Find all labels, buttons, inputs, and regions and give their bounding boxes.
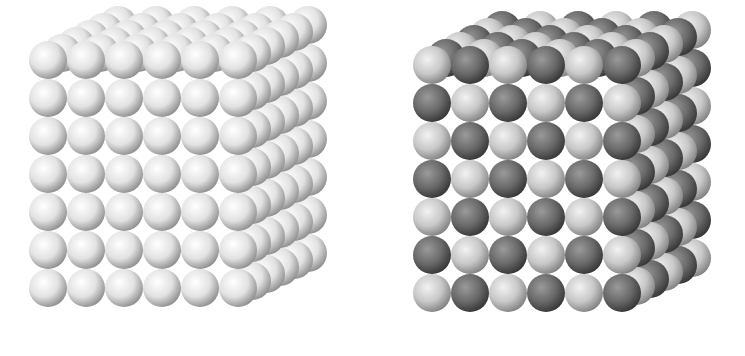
sphere (603, 46, 641, 84)
sphere (105, 155, 143, 193)
sphere (143, 193, 181, 231)
sphere (181, 79, 219, 117)
sphere (29, 231, 67, 269)
sphere (489, 84, 527, 122)
sphere (565, 236, 603, 274)
sphere (565, 160, 603, 198)
sphere (105, 193, 143, 231)
sphere (105, 117, 143, 155)
sphere (489, 160, 527, 198)
sphere (105, 41, 143, 79)
left-lattice-panel (0, 0, 372, 356)
sphere (219, 269, 257, 307)
sphere (181, 193, 219, 231)
sphere (527, 122, 565, 160)
sphere (67, 41, 105, 79)
sphere (527, 84, 565, 122)
sphere (105, 79, 143, 117)
sphere (565, 198, 603, 236)
sphere (219, 79, 257, 117)
sphere (565, 84, 603, 122)
sphere (451, 160, 489, 198)
sphere (29, 41, 67, 79)
right-lattice-panel (372, 0, 745, 356)
sphere (67, 117, 105, 155)
sphere (105, 231, 143, 269)
sphere (413, 84, 451, 122)
sphere (181, 117, 219, 155)
sphere (451, 122, 489, 160)
alternating-sphere-lattice-image (372, 0, 745, 356)
sphere (527, 160, 565, 198)
sphere (143, 269, 181, 307)
sphere (489, 274, 527, 312)
uniform-sphere-lattice-image (0, 0, 372, 356)
sphere (451, 236, 489, 274)
sphere (413, 198, 451, 236)
sphere (219, 155, 257, 193)
sphere (489, 236, 527, 274)
sphere (67, 231, 105, 269)
sphere (67, 155, 105, 193)
sphere (413, 160, 451, 198)
sphere (451, 84, 489, 122)
sphere (219, 193, 257, 231)
sphere (527, 236, 565, 274)
sphere (489, 46, 527, 84)
sphere (181, 231, 219, 269)
sphere (143, 155, 181, 193)
sphere (489, 122, 527, 160)
sphere (527, 274, 565, 312)
sphere (105, 269, 143, 307)
sphere (29, 269, 67, 307)
sphere (565, 122, 603, 160)
sphere (565, 274, 603, 312)
sphere (451, 198, 489, 236)
sphere (413, 236, 451, 274)
sphere (603, 198, 641, 236)
sphere (219, 117, 257, 155)
sphere (565, 46, 603, 84)
sphere (143, 117, 181, 155)
sphere (29, 117, 67, 155)
sphere (603, 236, 641, 274)
sphere (603, 274, 641, 312)
sphere (451, 274, 489, 312)
sphere (67, 269, 105, 307)
sphere (603, 122, 641, 160)
sphere (413, 274, 451, 312)
sphere (603, 160, 641, 198)
sphere (29, 79, 67, 117)
sphere (143, 79, 181, 117)
sphere (67, 79, 105, 117)
sphere (527, 198, 565, 236)
sphere (219, 231, 257, 269)
sphere (527, 46, 565, 84)
sphere (181, 41, 219, 79)
sphere (181, 269, 219, 307)
sphere (451, 46, 489, 84)
sphere (143, 231, 181, 269)
sphere (181, 155, 219, 193)
sphere (413, 46, 451, 84)
sphere (143, 41, 181, 79)
sphere (29, 193, 67, 231)
sphere (219, 41, 257, 79)
sphere (67, 193, 105, 231)
sphere (489, 198, 527, 236)
sphere (29, 155, 67, 193)
sphere (413, 122, 451, 160)
sphere (603, 84, 641, 122)
